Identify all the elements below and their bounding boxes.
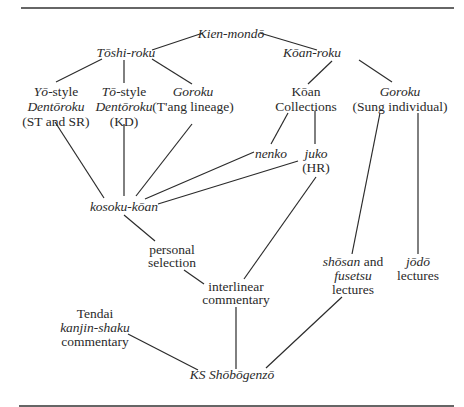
node-personal-selection: personal selection (148, 242, 196, 270)
node-to-style-dentoroku: Tō-style Dentōroku (KD) (94, 84, 152, 129)
node-koan-roku: Kōan-roku (282, 45, 341, 60)
edge-koan-goroku-sung (359, 60, 392, 82)
node-label: (ST and SR) (22, 114, 89, 129)
lineage-diagram: Kien-mondō Tōshi-roku Kōan-roku Yō-style… (0, 0, 464, 407)
edge-kosoku-personal (124, 215, 155, 241)
node-label: Kōan (291, 84, 320, 99)
edge-goroku-tang-kosoku (136, 124, 192, 196)
node-label-plain: and (360, 254, 383, 269)
node-label: lectures (332, 282, 374, 297)
edge-collections-nenko (271, 113, 288, 144)
node-label: (KD) (110, 114, 139, 129)
node-label: KS Shōbōgenzō (189, 367, 275, 382)
node-juko: juko (HR) (302, 146, 330, 175)
node-label-plain: -style (116, 84, 146, 99)
node-nenko: nenko (255, 146, 287, 161)
node-label: Dentōroku (26, 99, 84, 114)
node-yo-style-dentoroku: Yō-style Dentōroku (ST and SR) (22, 84, 89, 129)
edge-kien-toshi (152, 33, 203, 50)
node-interlinear-commentary: interlinear commentary (202, 279, 270, 307)
node-label-italic: shōsan (323, 254, 361, 269)
node-label: Tōshi-roku (97, 45, 156, 60)
node-label: Dentōroku (94, 99, 152, 114)
node-label: jōdō (404, 254, 430, 269)
node-label: (Sung individual) (353, 99, 448, 114)
edge-toshi-yo (56, 59, 102, 82)
edge-tendai-ks (128, 334, 198, 370)
edge-toshi-goroku-tang (152, 59, 192, 84)
node-tendai-kanjin-shaku: Tendai kanjin-shaku commentary (60, 306, 130, 349)
node-label: lectures (397, 268, 439, 283)
node-shosan-fusetsu: shōsan and fusetsu lectures (323, 254, 384, 297)
edge-juko-kosoku (158, 161, 298, 204)
edge-yo-kosoku (55, 122, 104, 198)
node-label: commentary (202, 292, 270, 307)
node-goroku-sung: Goroku (Sung individual) (353, 84, 448, 114)
node-label: (T'ang lineage) (152, 99, 234, 114)
node-label: fusetsu (334, 268, 372, 283)
node-label: Kōan-roku (282, 45, 341, 60)
node-jodo-lectures: jōdō lectures (397, 254, 439, 283)
node-kosoku-koan: kosoku-kōan (90, 199, 158, 214)
node-label: kosoku-kōan (90, 199, 158, 214)
node-label: Yō-style (34, 84, 78, 99)
node-label-italic: Yō (34, 84, 49, 99)
node-ks-shobogenzo: KS Shōbōgenzō (189, 367, 275, 382)
edge-juko-interlinear (244, 177, 316, 279)
node-kien-mondo: Kien-mondō (197, 26, 265, 41)
edge-shosan-ks (266, 297, 342, 368)
node-goroku-tang: Goroku (T'ang lineage) (152, 84, 234, 114)
node-label: Collections (275, 99, 337, 114)
node-label: shōsan and (323, 254, 384, 269)
node-label-plain: -style (48, 84, 78, 99)
edge-koan-collections (308, 61, 332, 84)
node-label: Kien-mondō (197, 26, 265, 41)
node-label: Tō-style (102, 84, 146, 99)
node-label: Goroku (380, 84, 421, 99)
node-toshi-roku: Tōshi-roku (97, 45, 156, 60)
node-label-italic: Tō (102, 84, 117, 99)
edge-personal-interlinear (184, 270, 204, 284)
node-label: kanjin-shaku (60, 320, 130, 335)
node-label: Tendai (77, 306, 114, 321)
node-label: Goroku (173, 84, 214, 99)
node-label: commentary (61, 334, 129, 349)
node-label: juko (302, 146, 327, 161)
node-label: (HR) (302, 160, 330, 175)
edge-nenko-kosoku (145, 152, 254, 199)
node-label: nenko (255, 146, 287, 161)
node-label: selection (148, 255, 196, 270)
edge-goroku-sung-shosan (352, 113, 380, 254)
node-koan-collections: Kōan Collections (275, 84, 337, 114)
